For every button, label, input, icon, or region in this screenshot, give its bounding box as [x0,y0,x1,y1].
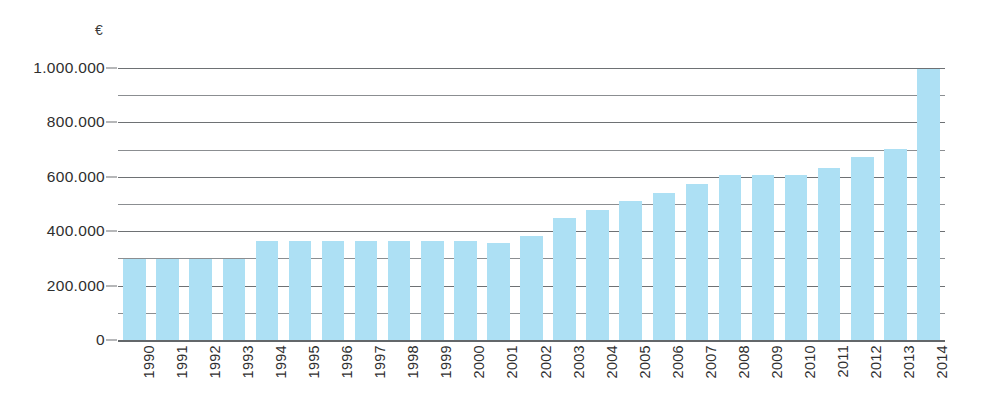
y-tick-mark [106,285,117,286]
bar[interactable] [223,259,246,340]
x-axis-tick-label: 1999 [438,345,454,378]
x-axis-tick-label: 2000 [471,345,487,378]
bar-slot [322,68,345,340]
x-axis-tick-label: 1996 [339,345,355,378]
bar-slot [752,68,775,340]
bar-slot [520,68,543,340]
x-axis-tick-label: 2008 [736,345,752,378]
bar-slot [586,68,609,340]
x-axis-tick-label: 1994 [273,345,289,378]
bar[interactable] [189,259,212,340]
bar[interactable] [355,241,378,340]
x-axis-tick: 2005 [637,345,670,361]
x-axis-tick-label: 2003 [571,345,587,378]
x-axis-tick: 2004 [604,345,637,361]
y-tick-mark [106,176,117,177]
x-axis-tick: 2012 [868,345,901,361]
x-axis-tick-label: 2004 [604,345,620,378]
bar-slot [851,68,874,340]
bar[interactable] [123,259,146,340]
bar[interactable] [553,218,576,340]
x-axis-tick-label: 2014 [934,345,950,378]
y-axis-tick-label: 800.000 [47,113,105,131]
x-axis-tick: 2003 [571,345,604,361]
x-axis-tick: 2007 [703,345,736,361]
bar-slot [884,68,907,340]
bar-slot [785,68,808,340]
y-tick-mark [106,122,117,123]
x-axis-tick: 1997 [372,345,405,361]
x-axis-tick: 2000 [471,345,504,361]
bar[interactable] [256,241,279,340]
x-axis-tick-label: 2010 [802,345,818,378]
bar[interactable] [884,149,907,340]
y-axis-tick-label: 1.000.000 [33,59,105,77]
x-axis-tick: 2011 [835,345,867,361]
x-axis-tick: 2008 [736,345,769,361]
x-axis-tick-label: 1993 [240,345,256,378]
plot-area: 1.000.000800.000600.000400.000200.0000 [118,68,945,340]
bar-slot [289,68,312,340]
bar[interactable] [388,241,411,340]
bar-slot [223,68,246,340]
x-axis-tick: 1994 [273,345,306,361]
x-axis-tick-label: 1995 [306,345,322,378]
x-axis-tick-label: 2005 [637,345,653,378]
x-axis-tick: 1992 [207,345,240,361]
bar[interactable] [752,175,775,340]
x-axis-tick: 1996 [339,345,372,361]
bar[interactable] [322,241,345,340]
y-axis-tick-label: 400.000 [47,222,105,240]
x-axis-tick: 2010 [802,345,835,361]
bar[interactable] [520,236,543,340]
bar-slot [421,68,444,340]
bar[interactable] [686,184,709,340]
bar-slot [619,68,642,340]
bar[interactable] [421,241,444,340]
bar-slot [487,68,510,340]
bar[interactable] [586,210,609,340]
x-axis-tick-label: 2002 [538,345,554,378]
x-axis-tick-label: 2006 [670,345,686,378]
bar[interactable] [487,243,510,340]
bar-chart: € 1.000.000800.000600.000400.000200.0000… [0,0,985,409]
bar[interactable] [785,175,808,340]
x-axis-tick-label: 2012 [868,345,884,378]
bar-slot [123,68,146,340]
x-axis-tick-label: 2011 [835,345,851,377]
y-tick-mark [106,340,117,341]
bar[interactable] [851,157,874,340]
bar-slot [719,68,742,340]
x-axis-tick-label: 2009 [769,345,785,378]
x-axis-tick: 1993 [240,345,273,361]
axis-baseline [118,340,945,342]
bar[interactable] [917,69,940,340]
bar[interactable] [454,241,477,340]
bar[interactable] [619,201,642,340]
y-axis-tick-label: 200.000 [47,277,105,295]
bar[interactable] [653,193,676,340]
bar[interactable] [156,259,179,340]
y-axis-tick-label: 600.000 [47,168,105,186]
y-tick-mark [106,231,117,232]
x-axis-tick-label: 2013 [901,345,917,378]
x-axis-tick: 1991 [174,345,207,361]
bar-slot [686,68,709,340]
x-axis-tick: 2002 [538,345,571,361]
y-axis-tick-label: 0 [96,331,105,349]
x-axis-tick-label: 1990 [141,345,157,378]
x-axis-tick: 1990 [141,345,174,361]
x-axis-tick: 2006 [670,345,703,361]
x-axis-tick-label: 2007 [703,345,719,378]
bar[interactable] [818,168,841,340]
x-axis-tick-label: 2001 [504,345,520,378]
bar-slot [156,68,179,340]
bar-slot [818,68,841,340]
bar[interactable] [289,241,312,340]
bar-slot [355,68,378,340]
x-axis-tick: 2001 [504,345,537,361]
bar[interactable] [719,175,742,340]
x-axis-tick-label: 1997 [372,345,388,378]
bar-slot [917,68,940,340]
x-axis-tick: 1998 [405,345,438,361]
